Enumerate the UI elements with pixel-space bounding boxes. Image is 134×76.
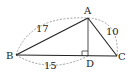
length-bd: 15: [44, 60, 57, 71]
label-b: B: [6, 50, 13, 61]
segment-bc: [16, 55, 117, 56]
label-d: D: [86, 58, 94, 69]
length-ac: 10: [106, 26, 119, 37]
triangle-diagram: A B C D 17 10 15: [0, 0, 134, 76]
label-c: C: [118, 51, 126, 62]
segment-ac: [88, 18, 117, 56]
length-ab: 17: [36, 23, 49, 34]
label-a: A: [83, 5, 92, 16]
